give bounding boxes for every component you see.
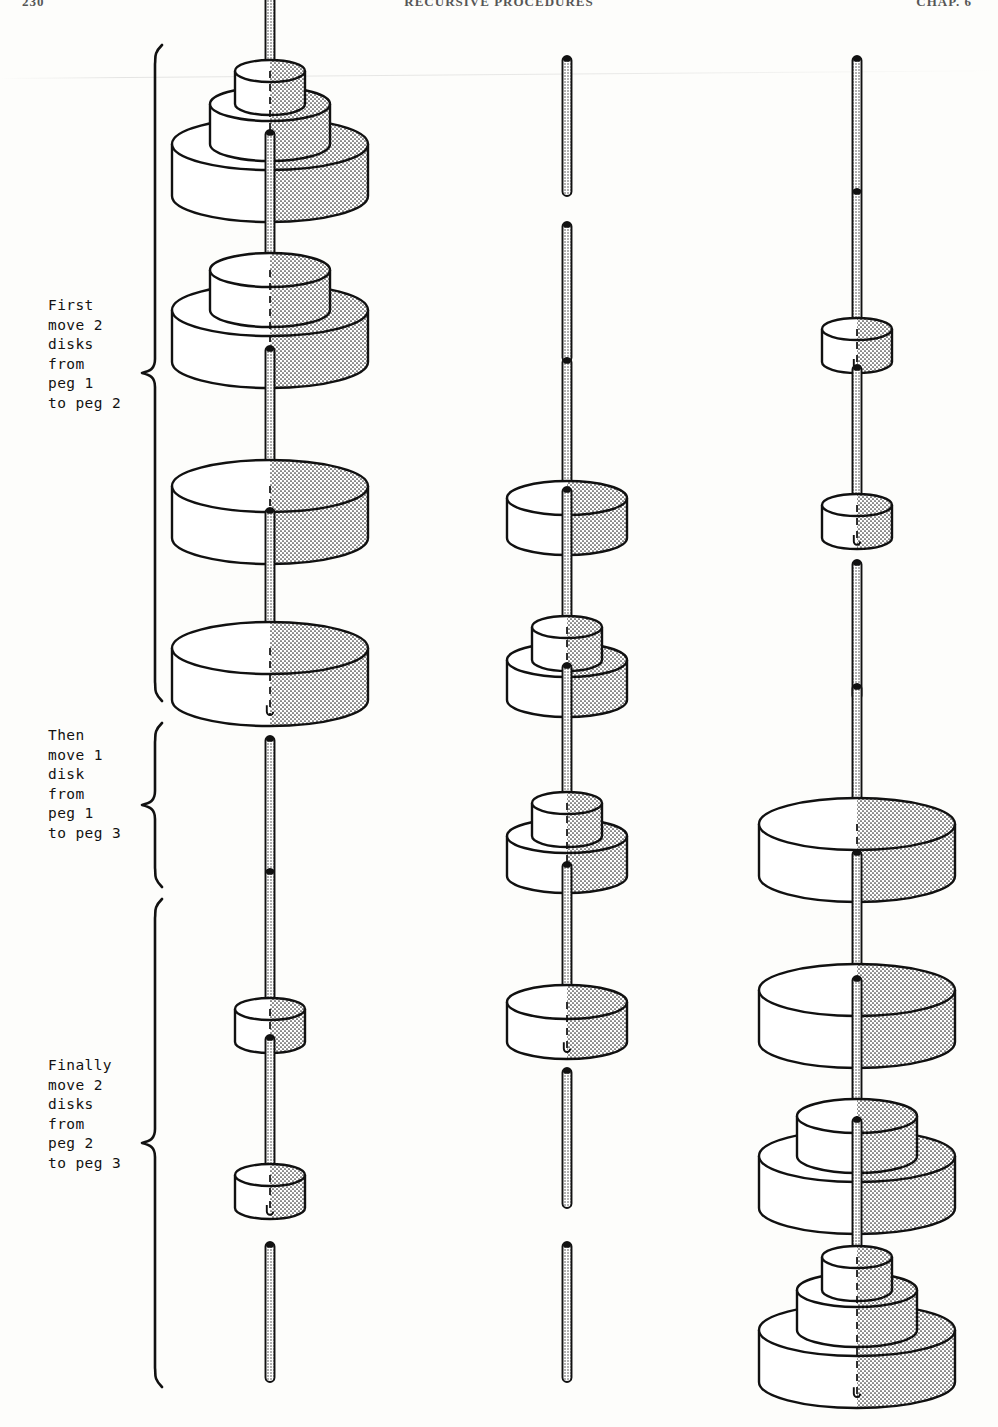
figure-page: 230 RECURSIVE PROCEDURES CHAP. 6 First m… [0,0,998,1427]
peg-column-2 [563,663,572,809]
peg-rod [266,869,275,1015]
chapter-mark: CHAP. 6 [916,0,972,10]
peg-column-3 [853,560,862,700]
peg-column-2 [563,487,572,633]
page-folio: 230 [22,0,45,10]
peg-rod [563,56,572,196]
peg-rod [563,1242,572,1382]
peg-column-2 [563,1242,572,1382]
peg-rod [853,1117,862,1263]
peg-rod [853,189,862,335]
running-head: 230 RECURSIVE PROCEDURES CHAP. 6 [0,0,998,14]
hanoi-state-row [0,540,998,730]
peg-rod [266,1035,275,1181]
hanoi-state-row-svg [0,882,998,1072]
peg-column-3 [853,56,862,196]
peg-column-3 [853,189,862,335]
peg-rod [563,487,572,633]
peg-column-3 [853,365,862,511]
peg-rod [563,663,572,809]
peg-column-2 [563,222,572,362]
peg-rod [563,1068,572,1208]
peg-column-3 [853,1117,862,1263]
peg-column-1 [266,736,275,876]
hanoi-state-row-svg [0,540,998,730]
hanoi-state-row [0,716,998,906]
peg-column-2 [563,1068,572,1208]
hanoi-state-row-svg [0,1222,998,1412]
peg-rod [853,560,862,700]
hanoi-state-row-svg [0,202,998,392]
hanoi-state-row [0,202,998,392]
peg-rod [853,365,862,511]
peg-column-1 [266,869,275,1015]
peg-rod [853,56,862,196]
hanoi-state-row [0,1222,998,1412]
peg-column-1 [266,1035,275,1181]
hanoi-state-row-svg [0,36,998,226]
peg-rod [266,736,275,876]
peg-column-2 [563,56,572,196]
hanoi-state-row [0,1048,998,1238]
peg-rod [266,1242,275,1382]
hanoi-state-row-svg [0,1048,998,1238]
peg-rod [563,222,572,362]
hanoi-state-row [0,882,998,1072]
hanoi-state-row [0,36,998,226]
running-title: RECURSIVE PROCEDURES [404,0,593,10]
peg-column-1 [266,1242,275,1382]
hanoi-state-row-svg [0,716,998,906]
